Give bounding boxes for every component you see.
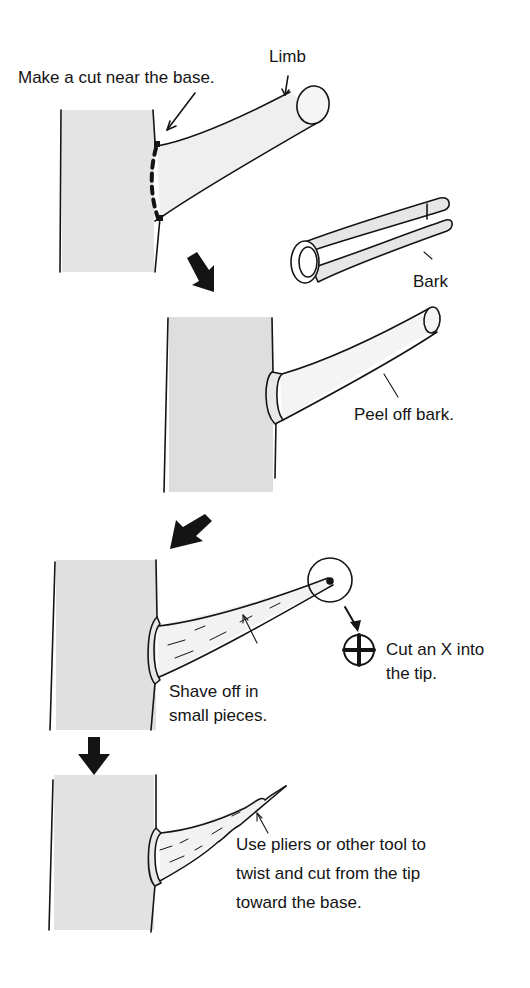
step3-trunk xyxy=(50,560,157,730)
bark-piece xyxy=(291,198,452,283)
step3-instruction-line2: small pieces. xyxy=(169,706,267,726)
step2-instruction: Peel off bark. xyxy=(354,405,454,425)
arrow-down-right-icon xyxy=(187,252,214,292)
arrow-down-icon xyxy=(78,737,110,775)
cross-cut-tip-icon xyxy=(344,635,374,665)
step4-line3: toward the base. xyxy=(236,893,362,913)
step3-tip-line1: Cut an X into xyxy=(386,640,484,660)
step3-tip-line2: the tip. xyxy=(386,664,437,684)
step3-limb xyxy=(148,578,334,684)
step4-trunk xyxy=(49,775,156,932)
bark-label: Bark xyxy=(413,272,448,292)
step1-limb xyxy=(155,84,332,221)
step1-trunk xyxy=(60,110,160,272)
arrow-down-left-icon xyxy=(170,514,212,549)
step4-line1: Use pliers or other tool to xyxy=(236,835,426,855)
limb-label: Limb xyxy=(269,47,306,67)
step2-trunk xyxy=(164,317,276,492)
step1-instruction: Make a cut near the base. xyxy=(18,68,215,88)
step4-line2: twist and cut from the tip xyxy=(236,864,420,884)
step3-instruction-line1: Shave off in xyxy=(169,682,258,702)
